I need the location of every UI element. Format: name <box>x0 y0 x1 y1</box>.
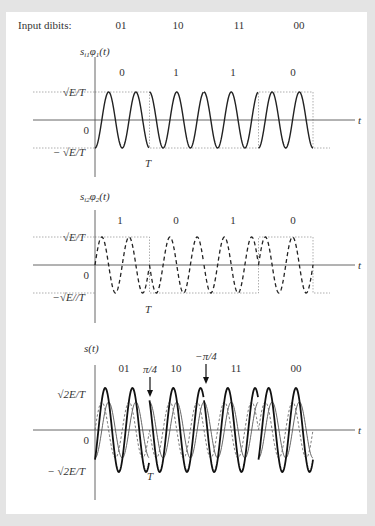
quadrature-bit-1: 1 <box>117 214 123 226</box>
in-phase-bit-3: 1 <box>230 66 236 78</box>
qpsk-sum-period-label: T <box>147 470 154 482</box>
phase-arrow-1-icon <box>147 390 153 397</box>
quadrature-bit-4: 0 <box>290 214 296 226</box>
in-phase-zero-label: 0 <box>84 124 90 136</box>
qpsk-sum-plot: s(t) 01 10 11 00 π/4 −π/4 √2E/T 0 − √2E/… <box>33 342 362 500</box>
in-phase-bit-1: 0 <box>119 66 125 78</box>
quadrature-bit-3: 1 <box>230 214 236 226</box>
dibit-3: 11 <box>234 19 245 31</box>
phase-annotation-1: π/4 <box>143 363 158 375</box>
qpsk-sum-lower-level-label: − √2E/T <box>47 465 85 477</box>
qpsk-sum-dibit-1: 01 <box>119 362 130 374</box>
in-phase-plot: si1φ1(t) 0 1 1 0 √E/T 0 − √E/T T t <box>33 45 362 177</box>
phase-annotation-2: −π/4 <box>195 350 217 362</box>
qpsk-sum-dibit-2: 10 <box>171 362 183 374</box>
qpsk-sum-title: s(t) <box>84 342 99 355</box>
quadrature-t-axis-label: t <box>358 259 362 271</box>
in-phase-lower-level-label: − √E/T <box>53 146 86 158</box>
qpsk-waveform-figure: Input dibits: 01 10 11 00 si1φ1(t) 0 1 1… <box>6 12 367 514</box>
qpsk-sum-t-axis-label: t <box>358 424 362 436</box>
in-phase-bit-4: 0 <box>290 66 296 78</box>
qpsk-sum-zero-label: 0 <box>84 434 90 446</box>
quadrature-lower-level-label: −√E//T <box>53 291 86 303</box>
input-dibits-label: Input dibits: <box>18 19 71 31</box>
qpsk-sum-dibit-3: 11 <box>231 362 242 374</box>
in-phase-title: si1φ1(t) <box>80 45 110 59</box>
quadrature-bit-2: 0 <box>173 214 179 226</box>
dibit-2: 10 <box>173 19 185 31</box>
dibit-1: 01 <box>116 19 127 31</box>
qpsk-sum-upper-level-label: √2E/T <box>58 388 86 400</box>
phase-arrow-2-icon <box>203 377 209 384</box>
quadrature-zero-label: 0 <box>84 269 90 281</box>
in-phase-t-axis-label: t <box>358 114 362 126</box>
qpsk-sum-dibit-4: 00 <box>291 362 303 374</box>
quadrature-upper-level-label: √E/T <box>63 231 86 243</box>
in-phase-bit-2: 1 <box>173 66 179 78</box>
in-phase-period-label: T <box>145 157 152 169</box>
in-phase-upper-level-label: √E/T <box>63 86 86 98</box>
quadrature-title: si2φ2(t) <box>80 190 110 204</box>
quadrature-period-label: T <box>145 303 152 315</box>
quadrature-plot: si2φ2(t) 1 0 1 0 √E/T 0 −√E//T T t <box>33 190 362 323</box>
dibit-4: 00 <box>294 19 306 31</box>
figure-panel: Input dibits: 01 10 11 00 si1φ1(t) 0 1 1… <box>6 12 367 514</box>
